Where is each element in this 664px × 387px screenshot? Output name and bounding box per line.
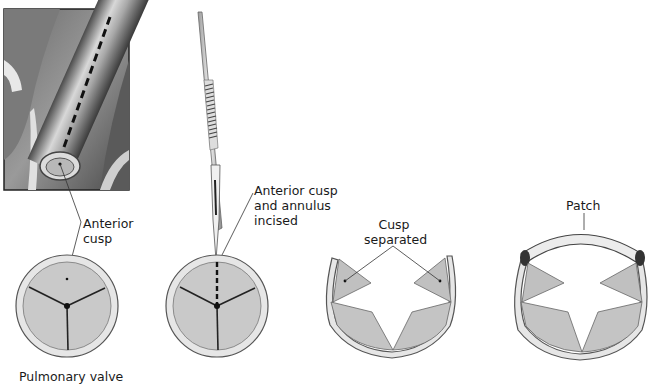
patch-label: Patch xyxy=(566,198,600,213)
scalpel-icon xyxy=(198,12,222,260)
separated-cusp-diagram xyxy=(326,246,455,358)
pulmonary-valve-caption: Pulmonary valve xyxy=(19,369,123,384)
cusp-separated-label: Cusp separated xyxy=(364,217,424,247)
leader-line xyxy=(220,193,253,259)
patched-valve-diagram xyxy=(515,213,647,360)
incision-label: Anterior cusp and annulus incised xyxy=(254,183,338,228)
incised-valve-diagram xyxy=(166,255,268,357)
pulmonary-artery-inset xyxy=(4,0,149,190)
anterior-cusp-label: Anterior cusp xyxy=(83,216,133,246)
pulmonary-valve-diagram xyxy=(16,255,118,357)
